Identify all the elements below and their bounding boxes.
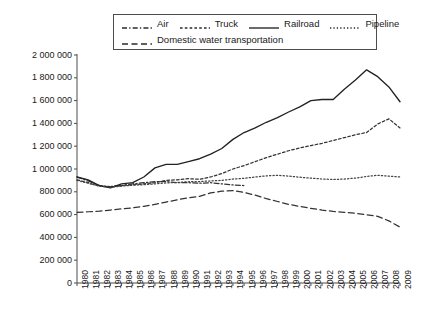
chart-container: AirTruckRailroadPipeline Domestic water … bbox=[0, 0, 424, 330]
legend-line-sample-dotted-fine bbox=[180, 23, 210, 33]
x-axis-tick-label: 1997 bbox=[270, 270, 279, 289]
y-axis-tick-label: 1 000 000 bbox=[10, 165, 72, 174]
legend-line-sample-dotted bbox=[330, 23, 360, 33]
legend-swatch-icon bbox=[122, 35, 152, 45]
legend-item-label: Pipeline bbox=[365, 19, 399, 29]
x-axis-tick-label: 2000 bbox=[303, 270, 312, 289]
x-axis-tick-label: 1984 bbox=[125, 270, 134, 289]
x-axis-tick-label: 1989 bbox=[181, 270, 190, 289]
x-axis-tick-label: 1996 bbox=[259, 270, 268, 289]
legend-item-truck[interactable]: Truck bbox=[180, 19, 238, 29]
x-axis-tick-label: 1992 bbox=[214, 270, 223, 289]
legend-item-railroad[interactable]: Railroad bbox=[249, 19, 319, 29]
legend-item-label: Air bbox=[157, 19, 169, 29]
series-line-domestic-water-transportation bbox=[77, 191, 400, 227]
legend-item-pipeline[interactable]: Pipeline bbox=[330, 19, 399, 29]
x-axis-tick-label: 2005 bbox=[359, 270, 368, 289]
x-axis-tick-label: 1981 bbox=[92, 270, 101, 289]
x-axis-tick-label: 1991 bbox=[203, 270, 212, 289]
legend-row-secondary: Domestic water transportation bbox=[122, 35, 294, 45]
y-axis-tick-label: 1 200 000 bbox=[10, 142, 72, 151]
x-axis-tick-label: 1988 bbox=[170, 270, 179, 289]
legend-item-label: Truck bbox=[215, 19, 238, 29]
x-axis-tick-label: 2006 bbox=[370, 270, 379, 289]
legend-swatch-icon bbox=[122, 19, 152, 29]
x-axis-tick-label: 1994 bbox=[236, 270, 245, 289]
x-axis-tick-label: 2001 bbox=[314, 270, 323, 289]
legend-swatch-icon bbox=[249, 19, 279, 29]
y-axis-tick-label: 2 000 000 bbox=[10, 51, 72, 60]
x-axis-tick-label: 1980 bbox=[81, 270, 90, 289]
series-line-railroad bbox=[77, 70, 400, 188]
x-axis-tick-label: 2007 bbox=[381, 270, 390, 289]
x-axis-tick-label: 1985 bbox=[136, 270, 145, 289]
x-axis-tick-label: 1993 bbox=[225, 270, 234, 289]
chart-legend: AirTruckRailroadPipeline Domestic water … bbox=[113, 14, 377, 50]
y-axis-tick-label: 1 600 000 bbox=[10, 96, 72, 105]
x-axis-tick-label: 1986 bbox=[147, 270, 156, 289]
x-axis-tick-label: 1999 bbox=[292, 270, 301, 289]
y-axis-tick-label: 200 000 bbox=[10, 256, 72, 265]
legend-line-sample-dashed bbox=[122, 39, 152, 49]
x-axis-tick-label: 2003 bbox=[337, 270, 346, 289]
x-axis-tick-label: 1998 bbox=[281, 270, 290, 289]
legend-item-air[interactable]: Air bbox=[122, 19, 169, 29]
legend-line-sample-dashdot bbox=[122, 23, 152, 33]
x-axis-tick-label: 1983 bbox=[114, 270, 123, 289]
x-axis-tick-label: 2009 bbox=[404, 270, 413, 289]
x-axis-tick-label: 1995 bbox=[248, 270, 257, 289]
y-axis-tick-label: 1 800 000 bbox=[10, 73, 72, 82]
legend-item-domestic-water-transportation[interactable]: Domestic water transportation bbox=[122, 35, 283, 45]
series-line-truck bbox=[77, 119, 400, 187]
legend-line-sample-solid bbox=[249, 23, 279, 33]
y-axis-tick-label: 0 bbox=[10, 279, 72, 288]
x-axis-tick-label: 2008 bbox=[392, 270, 401, 289]
legend-item-label: Railroad bbox=[284, 19, 319, 29]
x-axis-tick-label: 2002 bbox=[326, 270, 335, 289]
x-axis-tick-label: 2004 bbox=[348, 270, 357, 289]
x-axis-tick-label: 1990 bbox=[192, 270, 201, 289]
y-axis-tick-label: 800 000 bbox=[10, 187, 72, 196]
x-axis-tick-label: 1987 bbox=[158, 270, 167, 289]
x-axis-tick-label: 1982 bbox=[103, 270, 112, 289]
legend-item-label: Domestic water transportation bbox=[157, 35, 283, 45]
y-axis-tick-label: 600 000 bbox=[10, 210, 72, 219]
legend-swatch-icon bbox=[330, 19, 360, 29]
legend-row-primary: AirTruckRailroadPipeline bbox=[122, 19, 410, 29]
y-axis-tick-label: 400 000 bbox=[10, 233, 72, 242]
y-axis-tick-label: 1 400 000 bbox=[10, 119, 72, 128]
legend-swatch-icon bbox=[180, 19, 210, 29]
